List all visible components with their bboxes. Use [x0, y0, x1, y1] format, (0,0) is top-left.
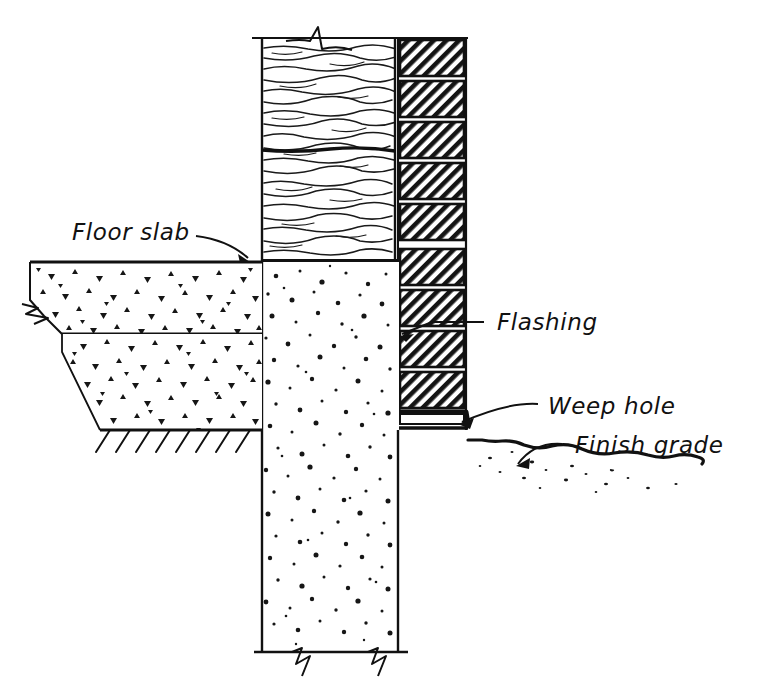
label-floor-slab: Floor slab [72, 219, 190, 245]
brick-course [400, 40, 464, 76]
brick-veneer [398, 38, 466, 430]
section-detail-canvas: Floor slab Flashing Weep hole Finish gra… [0, 0, 762, 695]
brick-course [400, 163, 464, 199]
brick-course [400, 249, 464, 285]
foundation-wall [262, 262, 399, 652]
label-weep-hole: Weep hole [548, 393, 676, 419]
wall-above-grade [262, 38, 396, 262]
label-finish-grade: Finish grade [575, 432, 724, 458]
architectural-detail-drawing: Floor slab Flashing Weep hole Finish gra… [0, 0, 762, 695]
label-flashing: Flashing [497, 309, 598, 335]
brick-course [400, 290, 464, 326]
brick-course [400, 372, 464, 408]
brick-course [400, 204, 464, 240]
floor-slab [30, 262, 262, 335]
brick-course [400, 81, 464, 117]
brick-course [400, 122, 464, 158]
